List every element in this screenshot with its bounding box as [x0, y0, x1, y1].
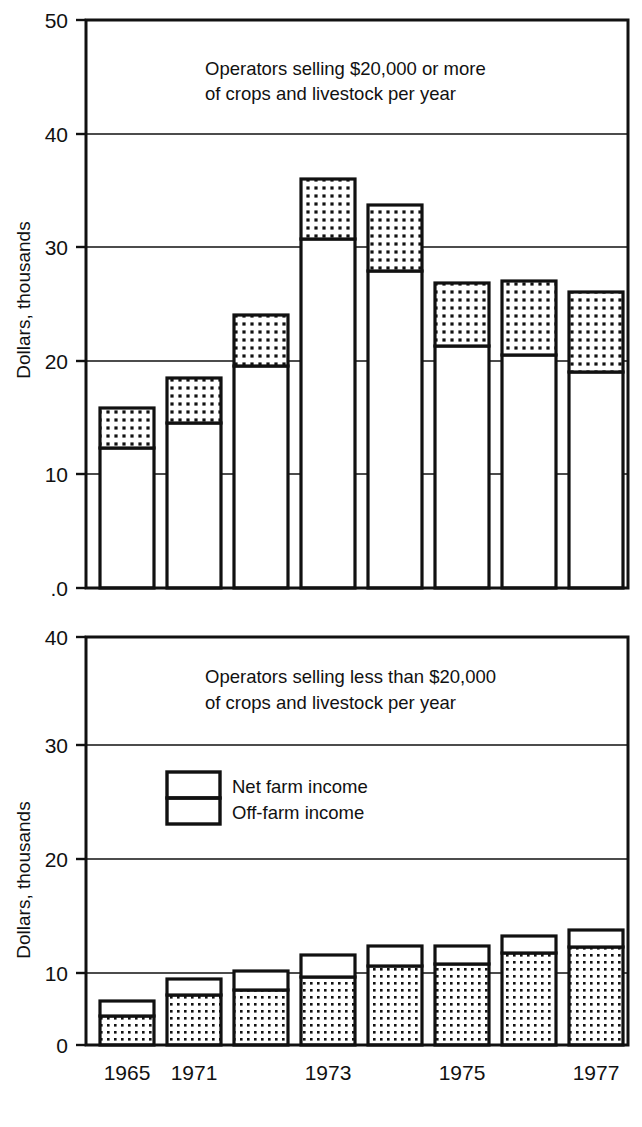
bar-off-1971	[167, 378, 221, 423]
top-panel-y-axis-label: Dollars, thousands	[13, 221, 34, 378]
legend-label-net-farm-income: Net farm income	[232, 776, 368, 797]
bar-net-1971-bottom	[167, 979, 221, 995]
bottom-ytick-30: 30	[45, 734, 68, 757]
bar-group-1973	[301, 179, 355, 588]
bar-net-1975-bottom	[435, 946, 489, 964]
bar-group-1971	[167, 378, 221, 588]
bar-net-1974-bottom	[368, 946, 422, 966]
bar-group-1971-bottom	[167, 979, 221, 1045]
bar-net-1971	[167, 423, 221, 588]
bar-off-1974-bottom	[368, 966, 422, 1045]
bar-group-1974-bottom	[368, 946, 422, 1045]
bar-off-1973-bottom	[301, 977, 355, 1045]
bar-group-1977	[569, 292, 623, 588]
bottom-ytick-40: 40	[45, 626, 68, 649]
bar-group-1976-bottom	[502, 936, 556, 1045]
bar-group-1977-bottom	[569, 930, 623, 1045]
top-panel-title-line1: Operators selling $20,000 or more	[205, 58, 486, 79]
bar-group-1973-bottom	[301, 955, 355, 1045]
bar-net-1977-bottom	[569, 930, 623, 947]
bar-net-1965	[100, 448, 154, 588]
bar-off-1973	[301, 179, 355, 239]
xtick-label-1971: 1971	[171, 1061, 218, 1084]
bottom-panel-title-line1: Operators selling less than $20,000	[205, 666, 496, 687]
bar-group-1972-bottom	[234, 971, 288, 1045]
bar-off-1976-bottom	[502, 953, 556, 1045]
bottom-ytick-10: 10	[45, 962, 68, 985]
bar-off-1972-bottom	[234, 990, 288, 1045]
bottom-panel-y-axis-label: Dollars, thousands	[13, 801, 34, 958]
bar-off-1975	[435, 283, 489, 346]
legend-label-off-farm-income: Off-farm income	[232, 802, 364, 823]
bar-net-1965-bottom	[100, 1001, 154, 1016]
bar-net-1976	[502, 355, 556, 588]
bar-off-1977-bottom	[569, 947, 623, 1045]
bar-group-1965	[100, 408, 154, 588]
top-ytick-40: 40	[45, 123, 68, 146]
bar-net-1976-bottom	[502, 936, 556, 953]
bottom-panel-title-line2: of crops and livestock per year	[205, 692, 456, 713]
bar-off-1965-bottom	[100, 1016, 154, 1045]
bar-off-1976	[502, 281, 556, 355]
top-ytick-50: 50	[45, 9, 68, 32]
top-panel-title-line2: of crops and livestock per year	[205, 83, 456, 104]
bar-off-1975-bottom	[435, 964, 489, 1045]
bar-net-1972-bottom	[234, 971, 288, 990]
bottom-ytick-0: 0	[56, 1034, 68, 1057]
bar-group-1976	[502, 281, 556, 588]
xtick-label-1965: 1965	[104, 1061, 151, 1084]
xtick-label-1973: 1973	[305, 1061, 352, 1084]
bar-group-1972	[234, 315, 288, 588]
xtick-label-1977: 1977	[573, 1061, 620, 1084]
bar-off-1974	[368, 205, 422, 271]
bar-net-1973-bottom	[301, 955, 355, 977]
bar-group-1975	[435, 283, 489, 588]
bar-net-1972	[234, 366, 288, 588]
xtick-label-1975: 1975	[439, 1061, 486, 1084]
bar-net-1975	[435, 346, 489, 588]
bar-off-1977	[569, 292, 623, 372]
bar-off-1972	[234, 315, 288, 366]
top-ytick-20: 20	[45, 350, 68, 373]
bar-off-1965	[100, 408, 154, 448]
bar-net-1973	[301, 239, 355, 588]
top-ytick-0: .0	[50, 577, 68, 600]
bottom-ytick-20: 20	[45, 848, 68, 871]
top-ytick-30: 30	[45, 236, 68, 259]
bar-net-1974	[368, 271, 422, 588]
bar-group-1975-bottom	[435, 946, 489, 1045]
bar-net-1977	[569, 372, 623, 588]
top-ytick-10: 10	[45, 463, 68, 486]
bar-group-1965-bottom	[100, 1001, 154, 1045]
bar-off-1971-bottom	[167, 995, 221, 1045]
bar-group-1974	[368, 205, 422, 588]
stacked-bar-chart-figure: 50 40 30 20 10 .0 Dollars, thousands Ope…	[0, 0, 642, 1127]
